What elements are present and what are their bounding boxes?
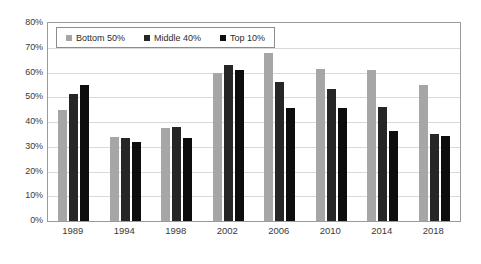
y-axis-tick-label: 20% (25, 166, 43, 176)
x-axis-tick-label: 2014 (371, 225, 392, 236)
y-axis-tick-label: 70% (25, 42, 43, 52)
x-axis-tick-label: 2018 (423, 225, 444, 236)
bar-group (367, 23, 398, 221)
y-axis-tick-label: 10% (25, 190, 43, 200)
x-axis-tick-label: 2002 (217, 225, 238, 236)
bar (161, 128, 170, 221)
legend-swatch-icon (144, 35, 150, 41)
x-axis-tick-label: 1989 (62, 225, 83, 236)
legend-swatch-icon (220, 35, 226, 41)
bar (327, 89, 336, 221)
bar (275, 82, 284, 221)
bar (121, 138, 130, 221)
bar-group (110, 23, 141, 221)
y-axis-tick-label: 60% (25, 67, 43, 77)
bar-group (213, 23, 244, 221)
legend-label: Top 10% (230, 33, 265, 43)
x-axis-tick-label: 1994 (114, 225, 135, 236)
bar (419, 85, 428, 221)
bar (235, 70, 244, 221)
bar (183, 138, 192, 221)
bar (69, 94, 78, 221)
y-axis-tick-label: 80% (25, 17, 43, 27)
y-axis-tick-label: 40% (25, 116, 43, 126)
legend-swatch-icon (66, 35, 72, 41)
x-axis-tick-label: 2006 (268, 225, 289, 236)
bar (264, 53, 273, 221)
y-axis-tick-label: 50% (25, 91, 43, 101)
legend-label: Bottom 50% (76, 33, 125, 43)
plot-area (47, 22, 461, 222)
bar (224, 65, 233, 221)
bar (378, 107, 387, 221)
bar-group (264, 23, 295, 221)
bar (110, 137, 119, 221)
x-axis: 19891994199820022006201020142018 (47, 225, 461, 245)
bar (58, 110, 67, 221)
y-axis-tick-label: 0% (30, 215, 43, 225)
y-axis-tick-label: 30% (25, 141, 43, 151)
x-axis-tick-label: 2010 (320, 225, 341, 236)
legend-item: Bottom 50% (66, 33, 125, 43)
bar-group (58, 23, 89, 221)
bar (286, 108, 295, 221)
bars-layer (48, 23, 460, 221)
bar-group (419, 23, 450, 221)
bar (316, 69, 325, 221)
bar-chart: 0%10%20%30%40%50%60%70%80% 1989199419982… (0, 0, 481, 264)
bar-group (316, 23, 347, 221)
bar (80, 85, 89, 221)
bar (132, 142, 141, 221)
bar (338, 108, 347, 221)
chart-legend: Bottom 50%Middle 40%Top 10% (56, 27, 275, 48)
bar (430, 134, 439, 221)
bar (367, 70, 376, 221)
legend-label: Middle 40% (154, 33, 201, 43)
x-axis-tick-label: 1998 (165, 225, 186, 236)
bar (213, 73, 222, 222)
legend-item: Middle 40% (144, 33, 201, 43)
bar-group (161, 23, 192, 221)
bar (441, 136, 450, 221)
legend-item: Top 10% (220, 33, 265, 43)
bar (389, 131, 398, 221)
bar (172, 127, 181, 221)
y-axis: 0%10%20%30%40%50%60%70%80% (0, 22, 43, 222)
